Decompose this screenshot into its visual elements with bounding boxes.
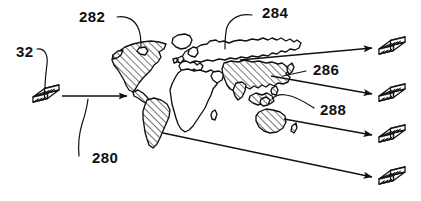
ref-numeral-32: 32 [16,43,34,60]
region-philippines [271,86,278,95]
figure-canvas: 32 280 282 284 286 288 [0,0,421,201]
ref-numeral-284: 284 [262,4,288,21]
figure-background [0,0,421,201]
ref-numeral-282: 282 [79,8,105,25]
region-madagascar [211,110,217,120]
ref-numeral-288: 288 [320,101,346,118]
patent-figure: 32 280 282 284 286 288 [0,0,421,201]
ref-numeral-286: 286 [313,61,339,78]
region-ireland [173,58,177,63]
ref-numeral-280: 280 [92,149,118,166]
region-borneo [260,97,270,106]
